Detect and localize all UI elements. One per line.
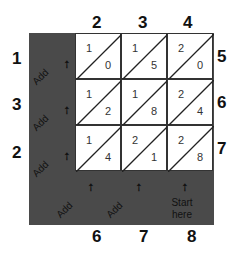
- top-digit: 3: [138, 13, 147, 33]
- right-digit: 5: [217, 47, 226, 67]
- left-result-digit: 1: [12, 49, 21, 69]
- lattice-cell: 1 0: [75, 33, 121, 79]
- right-digit: 6: [217, 93, 226, 113]
- lattice-cell: 1 4: [75, 125, 121, 171]
- lattice-cell: 1 5: [121, 33, 167, 79]
- top-digit: 2: [92, 13, 101, 33]
- left-result-digit: 2: [12, 143, 21, 163]
- lattice-cell: 1 2: [75, 79, 121, 125]
- bottom-result-digit: 8: [187, 227, 196, 247]
- right-digit: 7: [217, 139, 226, 159]
- top-digit: 4: [183, 13, 192, 33]
- bottom-result-digit: 6: [92, 227, 101, 247]
- lattice-cell: 2 1: [121, 125, 167, 171]
- lattice-cell: 2 0: [167, 33, 213, 79]
- lattice-grid: 1 0 1 5 2 0 1 2 1 8 2 4 1 4 2 1 2 8: [75, 33, 213, 171]
- bottom-result-digit: 7: [139, 227, 148, 247]
- left-result-digit: 3: [12, 95, 21, 115]
- start-here-label: Start here: [160, 197, 204, 221]
- lattice-cell: 1 8: [121, 79, 167, 125]
- lattice-cell: 2 4: [167, 79, 213, 125]
- lattice-cell: 2 8: [167, 125, 213, 171]
